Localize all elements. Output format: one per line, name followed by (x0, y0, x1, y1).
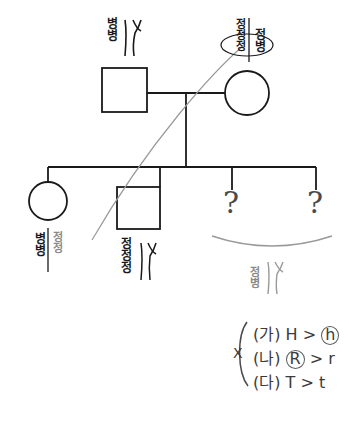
cross-note-1-recessive-circled: h (321, 326, 339, 345)
cross-note-1-tag: (가) (253, 325, 280, 344)
cross-note-2-recessive: r (328, 349, 335, 368)
gen2-daughter-circle (29, 182, 67, 220)
cross-note-3-relation: > (300, 373, 313, 392)
gen2-daughter-genotype-gray-label: 정정 (51, 231, 62, 253)
cross-note-2-dominant-circled: R (286, 350, 305, 369)
cross-symbol: X (233, 345, 243, 361)
cross-note-1-dominant: H (286, 325, 298, 344)
xy-chromosome-icon-unknown-bracket (268, 262, 283, 294)
pedigree-diagram-canvas: 병병 정정정 정병 병병 정정 정정정 ? ? 정병 X (가) H > h (… (0, 0, 349, 421)
gen1-father-square (102, 68, 147, 112)
gen1-mother-circle (225, 71, 269, 115)
cross-note-line-3: (다) T > t (253, 369, 325, 393)
unknown-offspring-bracket-genotype-label: 정병 (248, 266, 259, 288)
cross-note-3-tag: (다) (253, 373, 280, 392)
gen2-son-square (117, 187, 160, 229)
gen1-father-genotype-label: 병병 (105, 17, 117, 41)
cross-note-2-tag: (나) (253, 349, 280, 368)
cross-note-line-2: (나) R > r (253, 345, 335, 369)
gray-annotation-pointer-line (92, 46, 243, 240)
cross-note-3-dominant: T (286, 373, 296, 392)
xy-chromosome-icon-gen2-son (141, 243, 156, 280)
xy-chromosome-icon-gen1-father (125, 20, 141, 56)
gen1-mother-genotype-circled-label: 정정정 (234, 18, 245, 51)
cross-note-2-relation: > (310, 349, 323, 368)
gen2-son-genotype-label: 정정정 (119, 237, 131, 273)
cross-note-3-recessive: t (319, 373, 325, 392)
gen2-daughter-genotype-dark-label: 병병 (33, 232, 45, 256)
gen2-unknown-offspring-1-question: ? (223, 185, 239, 220)
cross-note-line-1: (가) H > h (253, 321, 339, 345)
gen1-mother-genotype-right-label: 정병 (253, 28, 265, 52)
cross-note-1-relation: > (303, 325, 316, 344)
gen2-unknown-offspring-2-question: ? (307, 185, 323, 220)
unknown-offspring-bracket-arc (212, 236, 332, 246)
